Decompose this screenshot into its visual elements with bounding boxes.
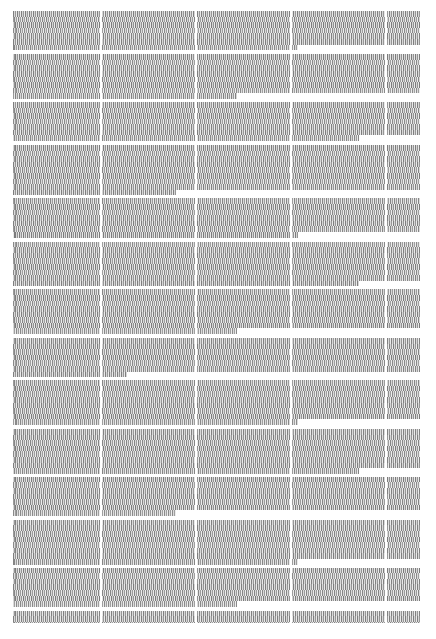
text-line (13, 226, 420, 232)
text-line (13, 531, 420, 537)
document-text-block (13, 11, 420, 623)
text-line (13, 510, 176, 516)
text-line (13, 198, 420, 204)
text-line (13, 440, 420, 446)
text-line (13, 468, 359, 474)
document-page (0, 0, 436, 639)
text-line (13, 258, 420, 264)
text-line (13, 559, 298, 565)
text-line (13, 289, 420, 295)
text-line (13, 601, 237, 607)
text-line (13, 408, 420, 414)
text-line (13, 349, 420, 355)
text-line (13, 328, 237, 334)
text-line (13, 108, 420, 114)
text-line (13, 380, 420, 386)
text-line (13, 190, 176, 196)
text-line (13, 45, 298, 51)
text-line (13, 499, 420, 505)
text-line (13, 93, 237, 99)
text-line (13, 77, 420, 83)
text-line (13, 167, 420, 173)
text-lines-container (13, 11, 420, 623)
text-line (13, 317, 420, 323)
text-line (13, 17, 420, 23)
text-line (13, 135, 359, 141)
text-line (13, 372, 127, 378)
text-line (13, 419, 298, 425)
text-line (13, 590, 420, 596)
text-line (13, 622, 420, 623)
text-line (13, 281, 359, 287)
